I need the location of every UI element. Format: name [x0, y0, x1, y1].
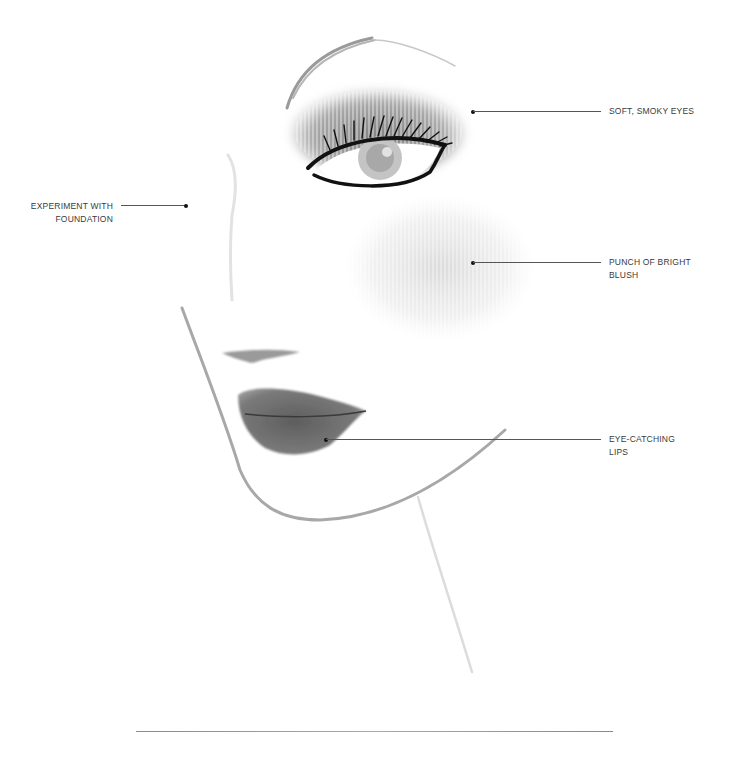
eyes-leader-line — [473, 111, 601, 112]
neck-line — [418, 497, 472, 672]
nose — [222, 350, 300, 363]
blush — [345, 196, 535, 340]
lips-leader-line — [326, 439, 601, 440]
temple-stroke — [228, 155, 235, 300]
bottom-divider — [136, 731, 613, 732]
lips-annotation: EYE-CATCHING LIPS — [609, 433, 675, 459]
blush-leader-line — [473, 262, 601, 263]
foundation-marker-dot — [184, 204, 188, 208]
lips — [238, 389, 366, 455]
eyes-annotation: SOFT, SMOKY EYES — [609, 105, 694, 118]
foundation-leader-line — [121, 205, 185, 206]
blush-annotation: PUNCH OF BRIGHT BLUSH — [609, 256, 691, 282]
foundation-annotation: EXPERIMENT WITH FOUNDATION — [0, 200, 113, 226]
